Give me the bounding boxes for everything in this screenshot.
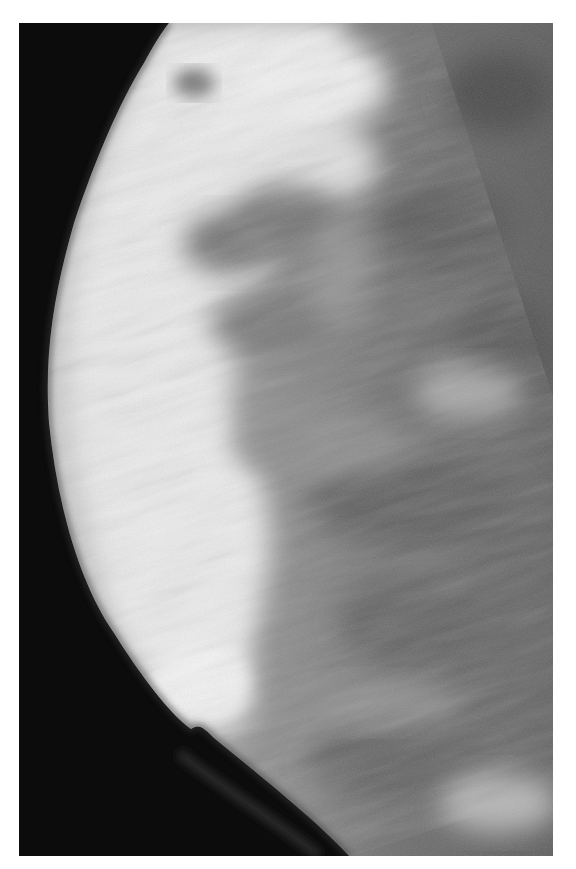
radiograph-image bbox=[19, 23, 553, 856]
mammogram-render bbox=[19, 23, 553, 856]
